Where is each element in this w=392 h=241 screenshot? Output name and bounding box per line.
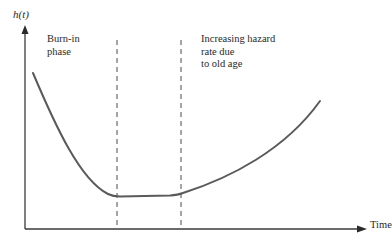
hazard-curve bbox=[33, 73, 320, 197]
burn-in-phase-label: Burn-in phase bbox=[47, 33, 80, 58]
x-axis-label: Time bbox=[370, 219, 392, 232]
increasing-hazard-label: Increasing hazard rate due to old age bbox=[201, 33, 275, 71]
y-axis-label: h(t) bbox=[13, 8, 29, 21]
y-axis-arrow-icon bbox=[22, 25, 29, 34]
x-axis-arrow-icon bbox=[357, 226, 367, 233]
